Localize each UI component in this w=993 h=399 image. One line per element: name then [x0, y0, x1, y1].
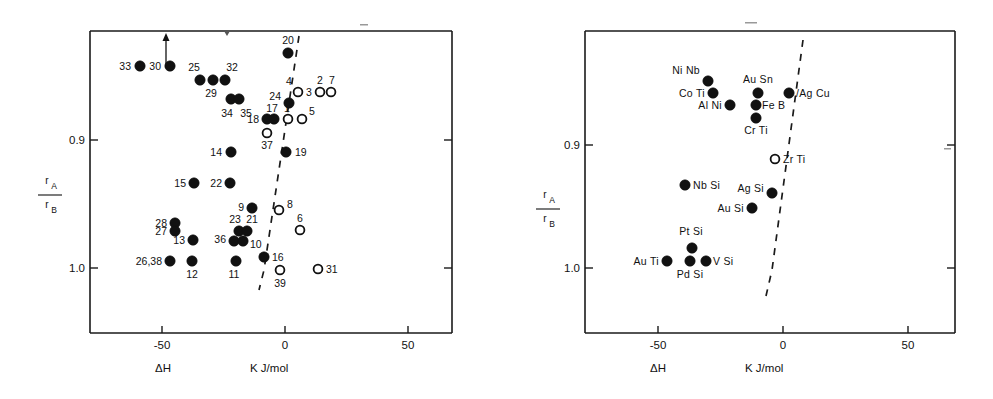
data-point-1[interactable] — [284, 115, 293, 124]
data-point-13[interactable] — [188, 235, 198, 245]
point-label-25: 25 — [188, 61, 200, 73]
point-label-33: 33 — [119, 60, 131, 72]
right-xaxis-title: ΔH — [650, 362, 666, 374]
point-label-13: 13 — [173, 234, 185, 246]
data-point-25[interactable] — [195, 75, 205, 85]
data-point-15[interactable] — [189, 178, 199, 188]
point-label-39: 39 — [274, 277, 286, 289]
data-point-2[interactable] — [316, 88, 325, 97]
data-point-cr-ti[interactable] — [751, 113, 761, 123]
data-point-au-si[interactable] — [747, 203, 757, 213]
data-point-4[interactable] — [294, 88, 303, 97]
point-label-21: 21 — [246, 213, 258, 225]
data-point-14[interactable] — [226, 147, 236, 157]
data-point-ag-cu[interactable] — [784, 88, 794, 98]
point-label-18: 18 — [247, 113, 259, 125]
data-point-29[interactable] — [208, 75, 218, 85]
point-label-36: 36 — [214, 233, 226, 245]
right-xticklabel-50: 50 — [902, 339, 915, 351]
point-label-6: 6 — [297, 212, 303, 224]
figure-container: -50 0 50 0.9 1.0 r A r B ΔH K J/mol — [0, 0, 993, 399]
point-label-7: 7 — [329, 74, 335, 86]
point-label-au-ti: Au Ti — [634, 255, 659, 267]
point-label-8: 8 — [287, 198, 293, 210]
data-point-co-ti[interactable] — [708, 88, 718, 98]
data-point-nb-si[interactable] — [680, 180, 690, 190]
point-label-ag-si: Ag Si — [737, 182, 764, 194]
right-yticklabel-1.0: 1.0 — [564, 262, 580, 274]
data-point-5[interactable] — [298, 115, 307, 124]
data-point-19[interactable] — [281, 147, 291, 157]
data-point-21[interactable] — [242, 226, 252, 236]
point-label-26-38: 26,38 — [136, 255, 162, 267]
point-label-ag-cu: /Ag Cu — [796, 87, 830, 99]
right-data-points: Ni Nb Co Ti Au Sn /Ag Cu Al Ni Fe B Cr T… — [634, 64, 830, 280]
right-yticklabel-0.9: 0.9 — [564, 139, 580, 151]
right-ylabel-denominator: r — [543, 213, 547, 224]
data-point-33[interactable] — [135, 61, 145, 71]
data-point-pt-si[interactable] — [687, 243, 697, 253]
data-point-12[interactable] — [187, 256, 197, 266]
data-point-6[interactable] — [296, 226, 305, 235]
point-label-14: 14 — [210, 146, 222, 158]
point-label-pt-si: Pt Si — [679, 225, 703, 237]
data-point-35[interactable] — [234, 94, 244, 104]
point-label-23: 23 — [229, 213, 241, 225]
point-label-pd-si: Pd Si — [677, 268, 704, 280]
data-point-7[interactable] — [327, 88, 336, 97]
point-label-4: 4 — [286, 75, 292, 87]
data-point-17[interactable] — [269, 114, 279, 124]
data-point-10[interactable] — [238, 236, 248, 246]
point-label-au-sn: Au Sn — [743, 73, 773, 85]
data-point-pd-si[interactable] — [685, 256, 695, 266]
left-ylabel-denominator: r — [45, 199, 49, 210]
point-label-5: 5 — [309, 105, 315, 117]
point-label-11: 11 — [229, 268, 240, 280]
left-xticklabel--50: -50 — [154, 339, 171, 351]
point-label-nb-si: Nb Si — [693, 179, 720, 191]
data-point-ni-nb[interactable] — [703, 76, 713, 86]
left-yticklabel-0.9: 0.9 — [69, 134, 85, 146]
scatter-figure-svg: -50 0 50 0.9 1.0 r A r B ΔH K J/mol — [0, 0, 993, 399]
left-panel: -50 0 50 0.9 1.0 r A r B ΔH K J/mol — [38, 24, 452, 374]
point-label-co-ti: Co Ti — [679, 87, 705, 99]
point-label-3: 3 — [306, 86, 312, 98]
right-ylabel-numerator: r — [543, 189, 547, 200]
data-point-37[interactable] — [263, 129, 272, 138]
scan-artifact-right-mid — [944, 148, 951, 150]
data-point-ag-si[interactable] — [767, 188, 777, 198]
data-point-26-38[interactable] — [165, 256, 175, 266]
data-point-22[interactable] — [225, 178, 235, 188]
data-point-v-si[interactable] — [701, 256, 711, 266]
data-point-39[interactable] — [276, 266, 285, 275]
point-label-v-si: V Si — [713, 255, 733, 267]
data-point-30[interactable] — [165, 61, 175, 71]
data-point-9[interactable] — [247, 203, 257, 213]
data-point-8[interactable] — [275, 206, 284, 215]
data-point-fe-b[interactable] — [751, 100, 761, 110]
data-point-31[interactable] — [314, 265, 323, 274]
point-label-32: 32 — [226, 61, 238, 73]
point-label-22: 22 — [210, 177, 222, 189]
point-label-2: 2 — [317, 74, 323, 86]
point-label-15: 15 — [174, 177, 186, 189]
data-point-zr-ti[interactable] — [771, 155, 780, 164]
left-ylabel-numerator: r — [45, 175, 49, 186]
right-y-axis-title: r A r B — [536, 189, 560, 229]
point-label-cr-ti: Cr Ti — [744, 124, 768, 136]
data-point-au-ti[interactable] — [662, 256, 672, 266]
scan-artifact — [224, 31, 230, 36]
point-label-au-si: Au Si — [717, 202, 744, 214]
data-point-al-ni[interactable] — [725, 100, 735, 110]
left-xticklabel-0: 0 — [282, 339, 288, 351]
data-point-32[interactable] — [220, 75, 230, 85]
data-point-20[interactable] — [283, 48, 293, 58]
data-point-16[interactable] — [259, 252, 269, 262]
point-label-10: 10 — [250, 238, 262, 250]
data-point-au-sn[interactable] — [753, 88, 763, 98]
point-label-27: 27 — [155, 225, 167, 237]
data-point-11[interactable] — [231, 256, 241, 266]
point-label-12: 12 — [186, 268, 198, 280]
left-xticklabel-50: 50 — [402, 339, 415, 351]
point-label-24: 24 — [269, 90, 281, 102]
